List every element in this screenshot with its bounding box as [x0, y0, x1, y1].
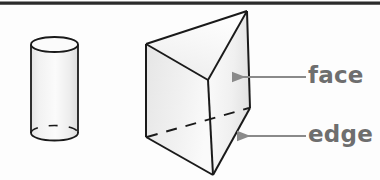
cylinder-shape — [31, 37, 78, 140]
geometry-figure: face edge — [0, 0, 380, 180]
triangular-prism-shape — [146, 11, 250, 175]
label-edge: edge — [308, 123, 373, 146]
figure-canvas — [0, 0, 380, 180]
label-face: face — [308, 64, 364, 87]
cylinder-top-face — [31, 37, 78, 52]
